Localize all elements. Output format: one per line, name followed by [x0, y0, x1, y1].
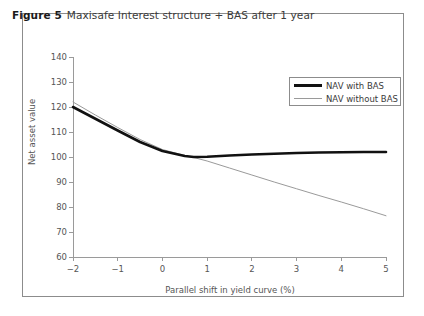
y-tick-label: 110	[45, 127, 67, 137]
y-tick-label: 70	[45, 227, 67, 237]
x-tick-label: 0	[160, 264, 165, 274]
x-tick-label: 3	[294, 264, 299, 274]
x-tick-label: −2	[67, 264, 80, 274]
y-tick-label: 90	[45, 177, 67, 187]
x-axis-title: Parallel shift in yield curve (%)	[165, 285, 294, 295]
legend-item-with-bas: NAV with BAS	[294, 79, 384, 92]
x-tick-label: 5	[383, 264, 388, 274]
y-tick-label: 140	[45, 52, 67, 62]
legend-item-without-bas: NAV without BAS	[294, 92, 398, 105]
legend-swatch-without-bas-icon	[294, 98, 322, 99]
y-tick-label: 130	[45, 77, 67, 87]
y-tick-label: 120	[45, 102, 67, 112]
figure-caption: Figure 5Maxisafe Interest structure + BA…	[12, 9, 314, 21]
y-tick-label: 60	[45, 252, 67, 262]
x-tick-label: 4	[339, 264, 344, 274]
y-tick-label: 80	[45, 202, 67, 212]
y-axis-title: Net asset value	[27, 99, 37, 165]
legend-label-with-bas: NAV with BAS	[326, 81, 384, 91]
figure-label: Figure 5	[12, 9, 62, 21]
chart-legend: NAV with BAS NAV without BAS	[289, 77, 401, 106]
x-tick-label: 1	[204, 264, 209, 274]
x-tick-label: −1	[111, 264, 124, 274]
legend-swatch-with-bas-icon	[294, 84, 322, 87]
figure-caption-text: Maxisafe Interest structure + BAS after …	[67, 9, 315, 21]
y-tick-label: 100	[45, 152, 67, 162]
legend-label-without-bas: NAV without BAS	[326, 94, 398, 104]
figure-frame	[22, 13, 404, 297]
x-tick-label: 2	[249, 264, 254, 274]
